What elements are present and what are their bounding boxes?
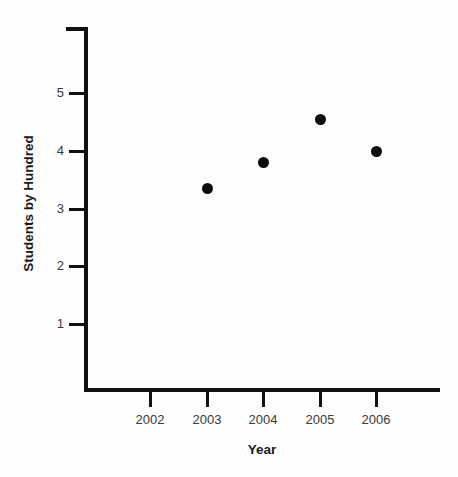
y-tick-label-wrap-1: 1 — [22, 317, 64, 331]
x-tick-label-2006: 2006 — [346, 413, 406, 426]
x-tick-label-2002: 2002 — [120, 413, 180, 426]
x-axis-title: Year — [84, 442, 440, 457]
y-axis-top-cap-tick — [66, 27, 85, 31]
y-tick-mark-3 — [69, 208, 85, 211]
y-tick-label-3: 3 — [44, 202, 64, 215]
y-tick-mark-1 — [69, 323, 85, 326]
y-tick-label-4: 4 — [44, 144, 64, 157]
x-tick-mark-2006 — [375, 392, 378, 407]
x-tick-mark-2004 — [262, 392, 265, 407]
x-tick-label-2004: 2004 — [233, 413, 293, 426]
y-tick-label-wrap-5: 5 — [22, 86, 64, 100]
data-point — [315, 114, 326, 125]
data-point — [258, 157, 269, 168]
x-tick-mark-2002 — [149, 392, 152, 407]
y-tick-label-1: 1 — [44, 317, 64, 330]
data-point — [202, 183, 213, 194]
x-tick-label-2003: 2003 — [177, 413, 237, 426]
y-tick-mark-5 — [69, 92, 85, 95]
scatter-chart: 5 4 3 2 1 2002 2003 2004 2005 2006 Stude… — [0, 0, 458, 477]
y-tick-label-2: 2 — [44, 259, 64, 272]
y-tick-label-5: 5 — [44, 86, 64, 99]
y-tick-mark-2 — [69, 265, 85, 268]
y-axis-title: Students by Hundred — [21, 114, 36, 294]
data-point — [371, 146, 382, 157]
x-tick-label-2005: 2005 — [290, 413, 350, 426]
x-tick-mark-2003 — [206, 392, 209, 407]
x-tick-mark-2005 — [319, 392, 322, 407]
y-tick-mark-4 — [69, 150, 85, 153]
